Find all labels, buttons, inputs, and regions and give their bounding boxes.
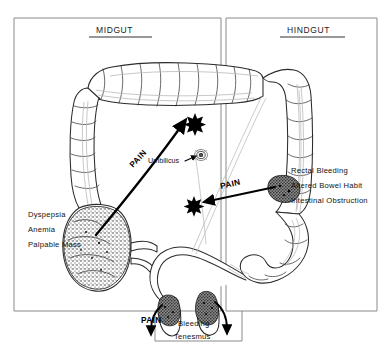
figure-canvas: MIDGUT HINDGUT [0, 0, 391, 352]
umbilicus-label: Umbilicus [148, 156, 180, 165]
hindgut-symptom-0: Rectal Bleeding [291, 166, 348, 175]
midgut-pain-label: PAIN [128, 148, 149, 169]
anal-pain-label: PAIN [141, 316, 162, 325]
midgut-pain-arrow-group: PAIN [96, 113, 206, 235]
umbilicus-marker [195, 150, 208, 161]
midgut-panel-title: MIDGUT [96, 25, 133, 35]
anal-symptom-0: Bleeding [178, 319, 210, 328]
ascending-colon [70, 88, 101, 208]
midgut-panel-title-group: MIDGUT [89, 25, 152, 37]
hindgut-symptom-list: Rectal Bleeding Altered Bowel Habit Inte… [291, 166, 368, 205]
hindgut-panel-title: HINDGUT [287, 25, 330, 35]
midgut-symptom-2: Palpable Mass [28, 240, 81, 249]
umbilicus-pointer-arrow [185, 157, 194, 161]
embryologic-division-lines [192, 96, 266, 254]
transverse-colon [88, 63, 263, 106]
hindgut-panel-title-group: HINDGUT [280, 25, 345, 37]
midgut-symptom-0: Dyspepsia [28, 210, 66, 219]
hindgut-symptom-1: Altered Bowel Habit [291, 181, 363, 190]
midgut-pain-arrow [96, 125, 182, 235]
umbilicus-group: Umbilicus [148, 150, 208, 166]
hindgut-pain-arrow-group: PAIN [184, 178, 275, 217]
midgut-symptom-1: Anemia [28, 225, 56, 234]
anal-symptom-1: Tenesmus [174, 332, 211, 341]
hindgut-pain-label: PAIN [219, 178, 241, 191]
colon-symptom-diagram: MIDGUT HINDGUT [0, 0, 391, 352]
hindgut-symptom-2: Intestinal Obstruction [291, 196, 368, 205]
midgut-referred-pain-star [184, 113, 206, 136]
